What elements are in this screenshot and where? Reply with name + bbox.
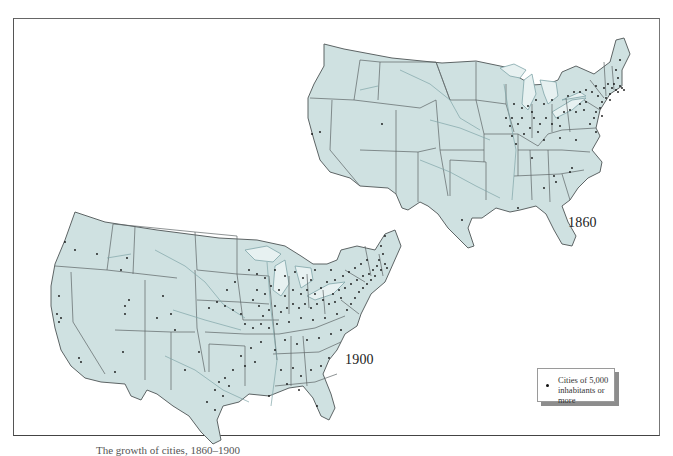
legend-line-2: inhabitants or more [558, 385, 614, 405]
figure-caption: The growth of cities, 1860–1900 [96, 444, 240, 456]
legend-line-1: Cities of 5,000 [558, 375, 614, 385]
legend-box: Cities of 5,000 inhabitants or more [537, 368, 615, 402]
us-outline-1900 [51, 212, 401, 444]
city-dot-icon [546, 384, 549, 387]
map-1900 [51, 212, 401, 444]
legend-text: Cities of 5,000 inhabitants or more [558, 375, 614, 405]
year-label-1900: 1900 [345, 352, 374, 368]
year-label-1860: 1860 [568, 215, 597, 231]
